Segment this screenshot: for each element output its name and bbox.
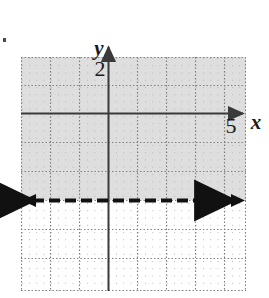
minor-grid (21, 57, 246, 291)
x-axis-label: x (250, 110, 262, 134)
coordinate-plane-svg: y 2 x 5 (0, 0, 269, 298)
graph-figure: y 2 x 5 (0, 0, 269, 298)
y-tick-label-2: 2 (95, 56, 106, 81)
margin-mark (3, 38, 6, 42)
x-tick-label-5: 5 (226, 113, 237, 138)
